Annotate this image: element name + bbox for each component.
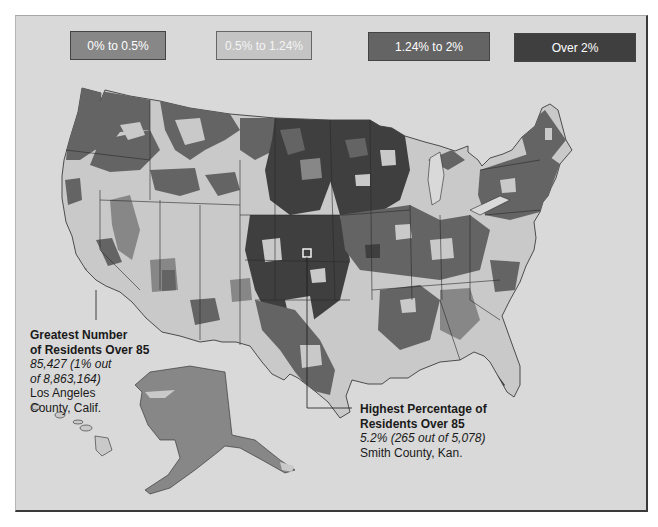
annotation-greatest-number: Greatest Number of Residents Over 85 85,… <box>30 328 149 415</box>
annotation-stat-line: of 8,863,164) <box>30 372 149 387</box>
alaska <box>135 366 295 494</box>
annotation-place-line: County, Calif. <box>30 401 149 416</box>
annotation-heading-line: Greatest Number <box>30 328 149 343</box>
annotation-heading-line: Highest Percentage of <box>360 402 487 417</box>
annotation-heading-line: Residents Over 85 <box>360 417 487 432</box>
us-county-map <box>0 0 658 527</box>
annotation-stat-line: 85,427 (1% out <box>30 357 149 372</box>
annotation-place-line: Los Angeles <box>30 386 149 401</box>
annotation-place-line: Smith County, Kan. <box>360 446 487 461</box>
annotation-heading-line: of Residents Over 85 <box>30 343 149 358</box>
annotation-highest-percentage: Highest Percentage of Residents Over 85 … <box>360 402 487 460</box>
annotation-stat-line: 5.2% (265 out of 5,078) <box>360 431 487 446</box>
